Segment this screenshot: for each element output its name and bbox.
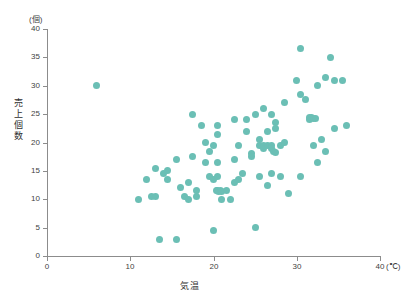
y-axis-title: 売上個数 — [13, 98, 25, 142]
x-tick-label: 0 — [35, 262, 59, 271]
scatter-point — [185, 179, 192, 186]
scatter-point — [277, 173, 284, 180]
scatter-point — [260, 105, 267, 112]
y-tick-label: 30 — [18, 81, 40, 90]
x-tick-mark — [130, 257, 131, 261]
scatter-point — [189, 111, 196, 118]
scatter-point — [264, 128, 271, 135]
scatter-point — [210, 227, 217, 234]
scatter-point — [252, 224, 259, 231]
scatter-point — [210, 142, 217, 149]
scatter-point — [173, 156, 180, 163]
x-tick-mark — [297, 257, 298, 261]
x-tick-mark — [47, 257, 48, 261]
scatter-point — [156, 236, 163, 243]
x-tick-mark — [214, 257, 215, 261]
scatter-chart-figure: (個) (℃) 売上個数 気温 0510152025303540 0102030… — [0, 0, 411, 302]
scatter-point — [302, 96, 309, 103]
scatter-point — [339, 77, 346, 84]
scatter-point — [202, 159, 209, 166]
scatter-point — [248, 153, 255, 160]
scatter-point — [214, 131, 221, 138]
y-tick-label: 40 — [18, 24, 40, 33]
scatter-point — [231, 156, 238, 163]
scatter-point — [202, 139, 209, 146]
scatter-point — [173, 236, 180, 243]
scatter-point — [264, 182, 271, 189]
scatter-point — [235, 142, 242, 149]
y-tick-label: 10 — [18, 194, 40, 203]
scatter-point — [243, 128, 250, 135]
scatter-point — [327, 54, 334, 61]
scatter-point — [252, 111, 259, 118]
scatter-point — [135, 196, 142, 203]
y-tick-label: 35 — [18, 52, 40, 61]
scatter-point — [223, 187, 230, 194]
y-tick-label: 5 — [18, 223, 40, 232]
x-axis-title: 気温 — [180, 279, 200, 292]
x-tick-label: 30 — [285, 262, 309, 271]
scatter-point — [198, 122, 205, 129]
y-tick-label: 15 — [18, 166, 40, 175]
scatter-point — [272, 149, 279, 156]
x-tick-label: 40 — [368, 262, 392, 271]
scatter-point — [268, 111, 275, 118]
scatter-point — [331, 77, 338, 84]
scatter-point — [256, 173, 263, 180]
scatter-point — [314, 159, 321, 166]
y-tick-label: 25 — [18, 109, 40, 118]
scatter-point — [310, 142, 317, 149]
scatter-point — [152, 165, 159, 172]
scatter-point — [285, 190, 292, 197]
x-tick-label: 20 — [202, 262, 226, 271]
scatter-point — [331, 125, 338, 132]
x-tick-mark — [380, 257, 381, 261]
scatter-point — [185, 196, 192, 203]
scatter-point — [281, 139, 288, 146]
y-tick-label: 0 — [18, 251, 40, 260]
y-tick-label: 20 — [18, 138, 40, 147]
scatter-point — [227, 196, 234, 203]
scatter-point — [322, 148, 329, 155]
scatter-point — [293, 77, 300, 84]
scatter-point — [152, 193, 159, 200]
x-tick-label: 10 — [118, 262, 142, 271]
y-axis-unit-label: (個) — [29, 13, 42, 24]
